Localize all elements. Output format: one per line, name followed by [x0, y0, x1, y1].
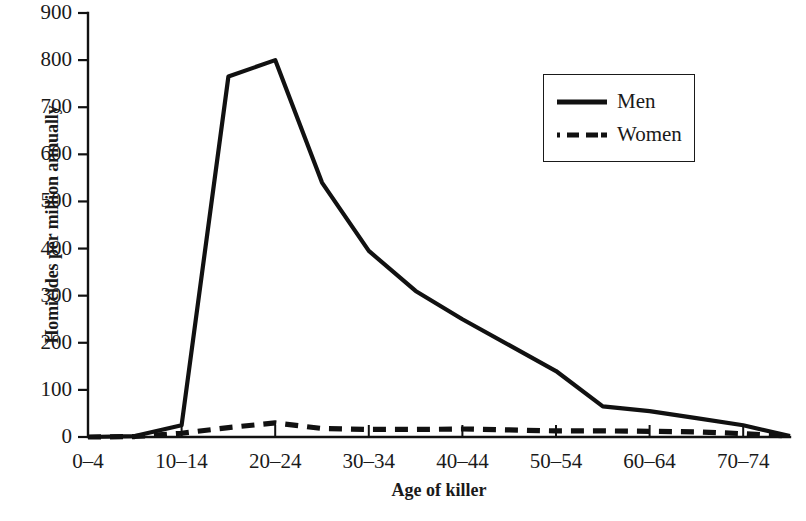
- x-axis-title: Age of killer: [88, 480, 790, 501]
- y-tick-label: 300: [12, 285, 72, 306]
- legend-label-women: Women: [617, 124, 682, 145]
- x-tick-label: 30–34: [319, 451, 419, 472]
- y-tick-label: 900: [12, 2, 72, 23]
- series-line-women: [88, 423, 790, 437]
- x-tick-label: 50–54: [506, 451, 606, 472]
- x-tick-label: 10–14: [132, 451, 232, 472]
- y-tick-label: 800: [12, 49, 72, 70]
- y-tick-label: 100: [12, 379, 72, 400]
- y-tick-label: 600: [12, 143, 72, 164]
- x-tick-label: 70–74: [693, 451, 793, 472]
- x-tick-label: 40–44: [412, 451, 512, 472]
- y-tick-label: 700: [12, 96, 72, 117]
- legend-swatch-men-icon: [556, 95, 608, 109]
- legend: Men Women: [543, 74, 695, 162]
- legend-item-women: Women: [556, 124, 682, 145]
- y-tick-label: 200: [12, 332, 72, 353]
- chart-figure: Homicides per million annually Age of ki…: [0, 0, 806, 521]
- y-tick-label: 400: [12, 238, 72, 259]
- legend-swatch-women-icon: [556, 128, 608, 142]
- legend-item-men: Men: [556, 91, 656, 112]
- x-tick-label: 60–64: [600, 451, 700, 472]
- x-tick-label: 0–4: [38, 451, 138, 472]
- x-tick-label: 20–24: [225, 451, 325, 472]
- y-tick-label: 0: [12, 426, 72, 447]
- y-tick-label: 500: [12, 190, 72, 211]
- legend-label-men: Men: [617, 91, 656, 112]
